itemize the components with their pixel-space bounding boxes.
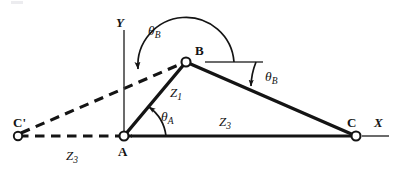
vector-label-z1: Z1 [170, 86, 182, 102]
theta-b-local-base: θ [265, 69, 272, 84]
joint-C-pivot [352, 132, 361, 141]
diagram-canvas [0, 0, 396, 174]
point-label-a: A [118, 145, 127, 158]
axis-label-x: X [374, 116, 383, 129]
point-label-c: C [347, 116, 356, 129]
joint-B-pivot [182, 58, 191, 67]
angle-label-theta-b-local: θB [265, 70, 277, 86]
point-label-b: B [195, 44, 204, 57]
pivot-joints [14, 58, 361, 141]
z3-lower-subscript: 3 [73, 155, 78, 165]
linkage-diagram-figure: C' A B C Y X Z1 Z3 Z3 θA θB θB [0, 0, 396, 174]
joint-A-pivot [120, 132, 129, 141]
dashed-construction-lines [19, 63, 183, 136]
z1-subscript: 1 [177, 92, 182, 102]
theta-b-global-base: θ [148, 23, 155, 38]
joint-Cprime-pivot [14, 132, 22, 140]
z3-upper-subscript: 3 [226, 121, 231, 131]
point-label-c-prime: C' [13, 116, 26, 129]
vector-label-z3-upper: Z3 [219, 115, 231, 131]
theta-a-base: θ [161, 109, 168, 124]
angle-label-theta-a: θA [161, 110, 173, 126]
theta-a-subscript: A [168, 116, 174, 126]
theta-b-local-subscript: B [272, 76, 278, 86]
theta-B-local-arc [251, 62, 256, 86]
link-CprimeB-dashed [21, 63, 183, 133]
axis-label-y: Y [116, 16, 124, 29]
vector-label-z3-lower: Z3 [66, 149, 78, 165]
angle-label-theta-b-global: θB [148, 24, 160, 40]
theta-b-global-subscript: B [155, 30, 161, 40]
